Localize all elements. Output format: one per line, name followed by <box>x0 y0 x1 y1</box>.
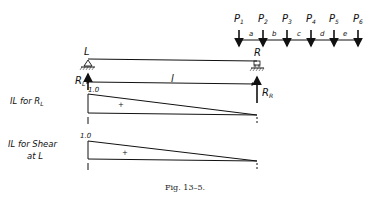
load-p4: P4 <box>306 13 316 46</box>
load-train: P1 P2 P3 P4 P5 P6 a b c d e <box>234 13 363 46</box>
influence-line-left-reaction: IL for RL 1.0 + <box>10 86 257 124</box>
influence-line-shear: IL for Shear at L 1.0 + <box>8 132 257 170</box>
il-sign: + <box>118 101 124 109</box>
influence-line-diagram: P1 P2 P3 P4 P5 P6 a b c d e L <box>0 0 381 199</box>
spacing-a-label: a <box>249 30 253 38</box>
load-label: P5 <box>329 13 339 25</box>
spacing-e-label: e <box>343 30 347 38</box>
il-label-line1: IL for Shear <box>8 139 58 149</box>
pin-support-icon <box>80 60 95 70</box>
beam-left-label: L <box>84 46 90 57</box>
beam-right-label: R <box>254 47 261 58</box>
load-label: P6 <box>353 13 363 25</box>
load-p6: P6 <box>353 13 363 46</box>
load-label: P4 <box>306 13 316 25</box>
load-p5: P5 <box>329 13 339 46</box>
load-label: P2 <box>258 13 268 25</box>
spacing-d-label: d <box>320 30 325 38</box>
il-ordinate-label: 1.0 <box>80 132 92 140</box>
il-label-line2: at L <box>27 151 43 161</box>
spacing-c-label: c <box>297 30 301 38</box>
il-sign: + <box>122 149 128 157</box>
right-reaction-label: RR <box>262 87 273 99</box>
span-label: l <box>171 73 174 84</box>
load-label: P3 <box>282 13 292 25</box>
load-label: P1 <box>234 13 244 25</box>
il-triangle <box>88 94 257 115</box>
load-p1: P1 <box>234 13 244 46</box>
beam-line <box>88 59 257 61</box>
roller-support-icon <box>250 61 264 71</box>
left-reaction-label: RL <box>75 75 85 87</box>
il-triangle <box>88 141 257 161</box>
figure-caption: Fig. 13–5. <box>165 183 205 192</box>
beam: L R RL RR l <box>75 46 273 103</box>
il-label: IL for RL <box>10 96 44 107</box>
load-p3: P3 <box>282 13 292 46</box>
il-ordinate-label: 1.0 <box>88 86 100 94</box>
load-p2: P2 <box>258 13 268 46</box>
spacing-b-label: b <box>272 30 277 38</box>
